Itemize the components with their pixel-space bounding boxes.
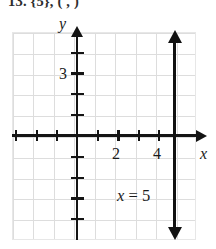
- x-tick-label-2: 2: [112, 146, 120, 162]
- x-tick: [56, 130, 58, 141]
- y-tick: [71, 197, 84, 199]
- coordinate-graph: 3 2 4 y x x = 5: [0, 0, 216, 249]
- plotted-line-x-equals-5: [173, 40, 176, 230]
- y-tick: [71, 177, 84, 179]
- x-tick: [117, 130, 119, 141]
- equation-annotation: x = 5: [117, 188, 150, 205]
- x-tick-label-4: 4: [153, 146, 161, 162]
- y-tick: [71, 218, 84, 220]
- x-tick: [36, 130, 38, 141]
- plot-line-up-arrow-icon: [168, 30, 182, 43]
- x-axis-label: x: [200, 146, 207, 162]
- plot-line-down-arrow-icon: [168, 227, 182, 240]
- y-tick: [71, 52, 84, 54]
- x-tick: [158, 130, 160, 141]
- equation-value: = 5: [124, 186, 150, 205]
- x-tick: [97, 130, 99, 141]
- y-axis-arrow-icon: [71, 26, 83, 37]
- x-axis-arrow-icon: [196, 130, 207, 142]
- y-tick: [71, 156, 84, 158]
- x-axis: [12, 134, 198, 137]
- y-axis-label: y: [59, 16, 66, 32]
- y-tick: [71, 114, 84, 116]
- y-axis: [76, 34, 79, 240]
- y-tick-label-3: 3: [59, 66, 67, 82]
- x-tick: [15, 130, 17, 141]
- x-tick: [138, 130, 140, 141]
- y-tick: [71, 93, 84, 95]
- y-tick: [71, 72, 84, 74]
- graph-page: 13. {5}, ( , ) 3 2 4 y x: [0, 0, 216, 249]
